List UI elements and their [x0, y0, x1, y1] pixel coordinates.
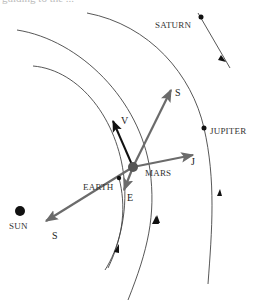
label-vector-earth: E — [127, 192, 133, 203]
vector-velocity — [113, 121, 133, 167]
label-vector-s-sun: S — [52, 230, 58, 241]
mars-dot — [128, 162, 138, 172]
label-mars: MARS — [145, 168, 171, 178]
label-earth: EARTH — [83, 182, 114, 192]
label-vector-s-outer: S — [175, 87, 181, 98]
earth-dot — [117, 176, 121, 180]
orbit-arrow-jupiter-icon — [217, 189, 222, 196]
orbit-jupiter — [87, 13, 212, 284]
label-vector-jupiter: J — [191, 156, 195, 167]
orbital-diagram: SATURN JUPITER MARS EARTH SUN S S J V E — [0, 0, 259, 307]
label-vector-velocity: V — [121, 115, 129, 126]
vector-s-sun — [46, 167, 133, 221]
label-saturn: SATURN — [155, 20, 192, 30]
saturn-dot — [199, 15, 204, 20]
label-jupiter: JUPITER — [210, 126, 246, 136]
jupiter-dot — [202, 126, 207, 131]
vector-jupiter — [133, 155, 193, 167]
sun-dot — [15, 206, 25, 216]
vector-s-outer — [133, 90, 171, 167]
label-sun: SUN — [9, 221, 28, 231]
orbit-saturn — [198, 13, 230, 68]
orbit-earth — [33, 66, 125, 270]
